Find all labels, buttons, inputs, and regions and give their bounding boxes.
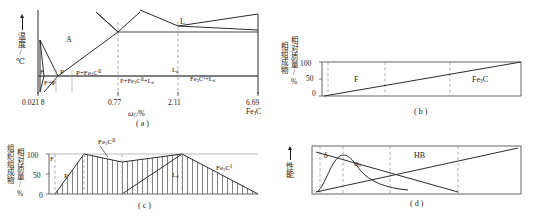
panel-a-liquidus-upper-right xyxy=(118,12,140,32)
panel-c-cementite2-main: Fe xyxy=(98,138,105,146)
panel-c-caption: ( c ) xyxy=(138,202,151,210)
panel-a-label-liquid: L xyxy=(180,18,185,26)
panel-a-xtick-2: 2.11 xyxy=(168,99,181,107)
panel-a-r4-roman: Ⅱ xyxy=(98,69,101,74)
panel-b-caption: ( b ) xyxy=(414,108,427,116)
panel-d-mechanical-properties: 性能 δ σb HB ( d ) xyxy=(268,128,537,219)
panel-a-r5-c: +L xyxy=(144,77,152,84)
panel-a-ld-top-b: d xyxy=(176,69,178,74)
panel-a-liquidus-left xyxy=(96,12,118,32)
panel-c-label-ledeburite: Ld xyxy=(172,172,179,180)
panel-a-liquidus-mid xyxy=(140,10,178,26)
panel-d-label-hb: HB xyxy=(414,152,425,160)
panel-c-plot xyxy=(0,128,268,219)
panel-d-plot xyxy=(268,128,537,219)
panel-c-cementite2-roman: Ⅱ xyxy=(112,138,115,143)
panel-d-label-delta: δ xyxy=(324,152,328,160)
panel-c-cementite1-roman: Ⅰ xyxy=(230,164,232,169)
panel-a-label-ferrite-pearlite: F+P xyxy=(44,80,56,87)
panel-a-fe3c-main: Fe xyxy=(246,107,254,116)
panel-c-label-pearlite: P xyxy=(64,173,68,180)
panel-b-label-cementite: Fe3C xyxy=(472,76,488,85)
panel-c-fe3c2-leader xyxy=(100,146,108,157)
panel-d-label-sigma-b: σb xyxy=(354,160,361,169)
panel-a-label-pearlite: P xyxy=(60,69,64,76)
panel-a-label-ld-prime: Ld xyxy=(172,67,178,74)
panel-a-r6-a: Fe xyxy=(190,75,197,82)
panel-a-r5-d: d xyxy=(152,80,154,85)
panel-a-label-ferrite: F xyxy=(40,69,44,76)
panel-a-caption: ( a ) xyxy=(136,120,149,128)
panel-c-ledeburite-sub: d xyxy=(176,174,178,179)
panel-a-xtick-3: 6.69 xyxy=(246,99,259,107)
panel-c-label-cementite1: Fe3CⅠ xyxy=(216,164,232,173)
panel-a-liquidus-right xyxy=(178,14,258,26)
panel-a-xtick-3-compound: Fe3C xyxy=(246,108,261,116)
panel-d-caption: ( d ) xyxy=(410,200,423,208)
panel-c-label-cementite2: Fe3CⅡ xyxy=(98,138,115,147)
panel-a-x-axis-label: ωC/% xyxy=(128,110,145,118)
panel-a-label-p-fe3c2: P+Fe3CⅡ xyxy=(76,69,101,78)
panel-a-label-fe3c1-ld: Fe3CⅠ+Ld xyxy=(190,76,215,84)
panel-a-r6-d: d xyxy=(213,78,215,83)
figure-root: 温度/℃ xyxy=(0,0,537,219)
panel-a-r5-a: P+Fe xyxy=(120,77,134,84)
panel-b-plot xyxy=(268,0,537,128)
panel-a-plot xyxy=(0,0,268,128)
panel-c-microstructure-fraction: 组织组成物 相对质量/% 100 50 0 xyxy=(0,128,268,219)
panel-b-cementite-tail: C xyxy=(483,75,488,84)
panel-a-label-austenite: A xyxy=(66,36,72,44)
panel-b-label-ferrite: F xyxy=(354,76,358,84)
panel-a-label-p-fe3c2-ld: P+Fe3CⅡ+Ld xyxy=(120,78,154,86)
panel-a-r4-a: P+Fe xyxy=(76,69,91,77)
panel-a-phase-diagram: 温度/℃ xyxy=(0,0,268,128)
panel-a-fe3c-tail: C xyxy=(256,107,261,116)
panel-c-cementite1-main: Fe xyxy=(216,164,223,172)
panel-b-cementite-main: Fe xyxy=(472,75,480,84)
panel-d-sigma-sub: b xyxy=(358,162,361,168)
panel-a-xtick-0: 0.021 8 xyxy=(22,99,45,107)
panel-a-xtick-1: 0.77 xyxy=(108,99,121,107)
panel-b-phase-fraction: 相组成物 相对质量/% 100 50 0 F Fe3C ( b ) xyxy=(268,0,537,128)
panel-a-r6-c: +L xyxy=(205,75,213,82)
panel-c-label-ferrite: F xyxy=(50,156,54,163)
panel-a-eutectic-right-edge xyxy=(178,26,258,30)
panel-a-xlabel-tail: /% xyxy=(137,109,145,118)
